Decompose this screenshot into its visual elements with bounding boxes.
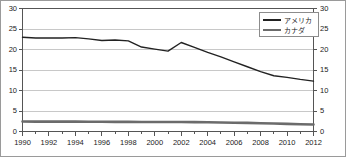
legend-line-icon-america [263, 19, 281, 20]
y-axis-left-label-10: 10 [0, 87, 17, 95]
y-axis-right-label-20: 20 [320, 46, 340, 54]
y-axis-left-label-0: 0 [0, 128, 17, 136]
legend-item-america: アメリカ [263, 15, 315, 25]
x-axis-label-1996: 1996 [88, 139, 116, 147]
y-axis-right-label-15: 15 [320, 66, 340, 74]
y-axis-left-label-15: 15 [0, 66, 17, 74]
x-axis-label-2002: 2002 [167, 139, 195, 147]
legend-item-canada: カナダ [263, 25, 315, 35]
y-axis-left-label-25: 25 [0, 25, 17, 33]
x-axis-label-2006: 2006 [220, 139, 248, 147]
x-axis-label-1990: 1990 [9, 139, 37, 147]
y-axis-left-label-5: 5 [0, 107, 17, 115]
y-axis-left-label-20: 20 [0, 46, 17, 54]
x-axis-label-1994: 1994 [61, 139, 89, 147]
y-axis-left-label-30: 30 [0, 5, 17, 13]
y-axis-right-label-25: 25 [320, 25, 340, 33]
x-axis-label-1998: 1998 [114, 139, 142, 147]
legend-label-america: アメリカ [284, 17, 312, 24]
x-axis-label-2004: 2004 [194, 139, 222, 147]
x-axis-label-2010: 2010 [273, 139, 301, 147]
y-axis-right-label-0: 0 [320, 128, 340, 136]
x-axis-label-1992: 1992 [35, 139, 63, 147]
x-axis-label-2012: 2012 [300, 139, 328, 147]
y-axis-right-label-30: 30 [320, 5, 340, 13]
legend-line-icon-canada [263, 29, 281, 32]
x-axis-label-2000: 2000 [141, 139, 169, 147]
y-axis-right-label-10: 10 [320, 87, 340, 95]
x-axis-label-2008: 2008 [247, 139, 275, 147]
legend-label-canada: カナダ [284, 27, 305, 34]
line-chart: 051015202530 051015202530 19901992199419… [0, 0, 346, 157]
chart-legend: アメリカ カナダ [259, 12, 319, 37]
y-axis-right-label-5: 5 [320, 107, 340, 115]
